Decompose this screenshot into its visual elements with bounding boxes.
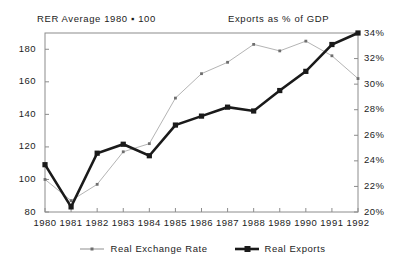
legend-item-real-exports: Real Exports — [234, 243, 326, 254]
data-point-marker — [44, 178, 47, 181]
data-point-marker — [329, 42, 334, 47]
data-point-marker — [277, 88, 282, 93]
series-line-1 — [45, 33, 358, 207]
right-tick-label-20: 20% — [364, 206, 396, 217]
legend-item-real-exchange-rate: Real Exchange Rate — [79, 243, 207, 254]
data-point-marker — [304, 40, 307, 43]
axis-ticks — [45, 33, 358, 212]
data-series-group — [42, 30, 360, 209]
right-tick-label-28: 28% — [364, 103, 396, 114]
data-point-marker — [357, 77, 360, 80]
legend-label-real-exchange-rate: Real Exchange Rate — [110, 243, 207, 254]
data-point-marker — [96, 183, 99, 186]
legend-line-swatch-exchange-rate — [79, 244, 105, 254]
legend-label-real-exports: Real Exports — [265, 243, 326, 254]
data-point-marker — [147, 153, 152, 158]
chart-figure: RER Average 1980 ▪ 100 Exports as % of G… — [0, 0, 405, 269]
plot-frame — [45, 33, 358, 212]
right-tick-label-22: 22% — [364, 180, 396, 191]
x-tick-label-1992: 1992 — [341, 217, 375, 228]
data-point-marker — [42, 162, 47, 167]
data-point-marker — [303, 69, 308, 74]
data-point-marker — [226, 61, 229, 64]
right-tick-label-32: 32% — [364, 52, 396, 63]
data-point-marker — [225, 105, 230, 110]
data-point-marker — [174, 97, 177, 100]
data-point-marker — [122, 150, 125, 153]
right-tick-label-30: 30% — [364, 78, 396, 89]
data-point-marker — [70, 199, 73, 202]
data-point-marker — [121, 142, 126, 147]
left-tick-label-80: 80 — [8, 206, 36, 217]
data-point-marker — [251, 108, 256, 113]
data-point-marker — [278, 50, 281, 53]
plot-area — [0, 0, 405, 269]
legend-line-swatch-real-exports — [234, 244, 260, 254]
data-point-marker — [331, 54, 334, 57]
right-tick-label-34: 34% — [364, 27, 396, 38]
data-point-marker — [199, 114, 204, 119]
data-point-marker — [355, 30, 360, 35]
data-point-marker — [200, 72, 203, 75]
data-point-marker — [148, 142, 151, 145]
right-tick-label-24: 24% — [364, 154, 396, 165]
right-tick-label-26: 26% — [364, 129, 396, 140]
data-point-marker — [173, 122, 178, 127]
left-tick-label-120: 120 — [8, 140, 36, 151]
left-tick-label-140: 140 — [8, 108, 36, 119]
data-point-marker — [68, 204, 73, 209]
left-tick-label-160: 160 — [8, 75, 36, 86]
chart-legend: Real Exchange Rate Real Exports — [0, 243, 405, 254]
left-tick-label-100: 100 — [8, 173, 36, 184]
data-point-marker — [95, 151, 100, 156]
data-point-marker — [252, 43, 255, 46]
left-tick-label-180: 180 — [8, 43, 36, 54]
